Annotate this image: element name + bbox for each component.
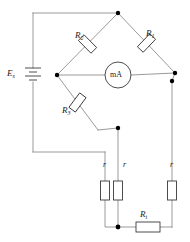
resistor-lead-left-body	[101, 181, 110, 200]
resistor-rt-body	[136, 222, 160, 232]
resistor-lead-right-body	[168, 181, 177, 200]
label-milliammeter: mA	[110, 71, 122, 79]
circuit-diagram: Es R2 R1 R3 mA r r r Rt	[0, 0, 190, 242]
bridge-node-left	[55, 73, 59, 77]
label-lead-left: r	[103, 161, 106, 169]
label-lead-mid: r	[123, 161, 126, 169]
resistor-lead-mid-body	[114, 181, 123, 200]
label-r2: R2	[75, 31, 84, 40]
label-source: Es	[7, 69, 15, 78]
schematic-canvas	[0, 0, 190, 242]
bridge-node-right	[173, 71, 177, 75]
resistor-r3-body	[69, 93, 86, 112]
bridge-node-top	[116, 11, 120, 15]
junction-mid-upper	[116, 126, 120, 130]
wire-meter-right	[131, 73, 175, 75]
dc-source-symbol	[25, 68, 41, 80]
junction-bottom	[116, 225, 121, 230]
label-r3: R3	[62, 106, 71, 115]
label-r1: R1	[146, 29, 155, 38]
label-rt: Rt	[140, 210, 147, 219]
label-lead-right: r	[170, 161, 173, 169]
wire-r3-to-mid	[98, 128, 118, 130]
junction-right-lower	[170, 79, 174, 83]
wire-left-lead-bottom	[105, 200, 118, 227]
